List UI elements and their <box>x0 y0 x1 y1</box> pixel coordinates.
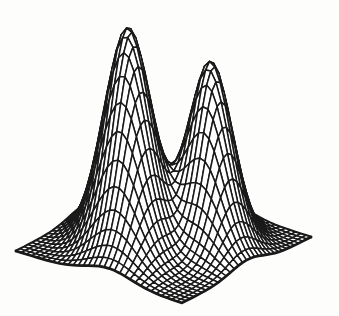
surface-plot-figure <box>0 0 339 316</box>
wireframe-mesh-canvas <box>0 0 339 316</box>
